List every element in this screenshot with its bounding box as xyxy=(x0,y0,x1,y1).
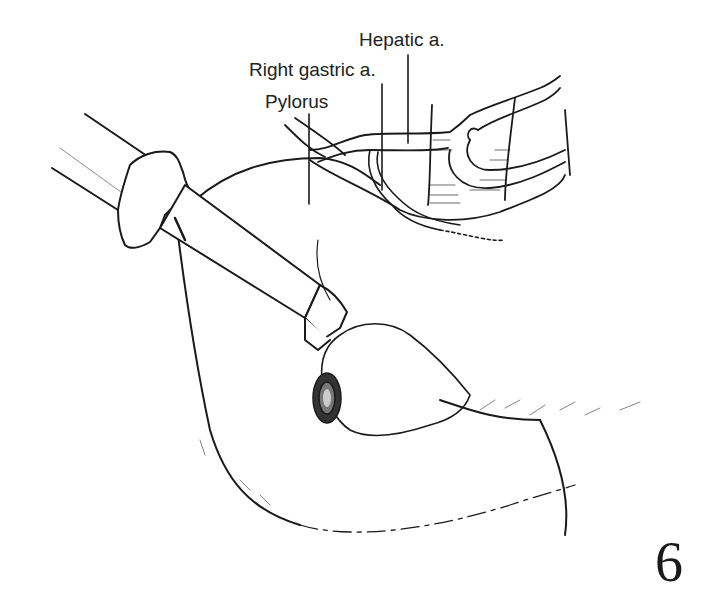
figure-number: 6 xyxy=(655,534,683,590)
line-drawing xyxy=(0,0,720,614)
medical-illustration: Hepatic a. Right gastric a. Pylorus 6 xyxy=(0,0,720,614)
instrument xyxy=(52,114,347,350)
lesion xyxy=(313,373,341,423)
label-right-gastric-artery: Right gastric a. xyxy=(249,60,376,79)
label-pylorus: Pylorus xyxy=(265,92,328,111)
label-hepatic-artery: Hepatic a. xyxy=(359,30,445,49)
stomach-outline xyxy=(178,158,575,535)
texture-strokes xyxy=(200,400,640,505)
hepatic-artery xyxy=(310,76,565,188)
